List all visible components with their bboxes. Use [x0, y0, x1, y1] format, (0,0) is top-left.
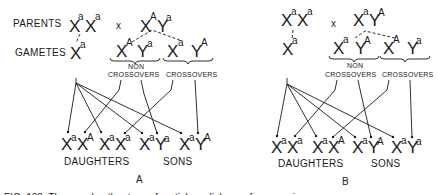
- mother-genotype: X a X a: [69, 11, 101, 36]
- crossovers-label: CROSSOVERS: [166, 71, 218, 78]
- svg-text:a: a: [416, 136, 422, 147]
- crossover-diagram: PARENTS GAMETES X a X a x X A Y a X a X …: [0, 0, 438, 195]
- svg-text:X: X: [167, 42, 178, 61]
- fertilization-lines: [68, 78, 198, 133]
- svg-text:A: A: [377, 136, 384, 147]
- daughters-label: DAUGHTERS: [278, 158, 344, 169]
- svg-text:A: A: [393, 34, 400, 45]
- offspring-genotype: X a Y A: [179, 132, 211, 154]
- offspring-genotype: X a X a: [271, 135, 303, 157]
- father-genotype: X a Y A: [353, 6, 385, 30]
- svg-text:a: a: [125, 132, 131, 143]
- crossover-gametes: X A Y a: [383, 34, 422, 58]
- svg-text:A: A: [201, 37, 208, 48]
- offspring-genotype: X a X A: [312, 135, 345, 157]
- noncrossovers-label: CROSSOVERS: [325, 71, 377, 78]
- parents-label: PARENTS: [13, 18, 62, 29]
- svg-text:A: A: [204, 132, 211, 143]
- svg-text:a: a: [292, 35, 298, 46]
- panel-b: X a X a x X a Y A X a X a Y A X A Y: [271, 6, 434, 187]
- svg-text:A: A: [378, 7, 385, 18]
- offspring-genotype: X a X a: [99, 132, 131, 154]
- svg-text:a: a: [95, 11, 101, 22]
- svg-text:a: a: [78, 11, 84, 22]
- svg-text:A: A: [87, 132, 94, 143]
- svg-text:a: a: [297, 135, 303, 146]
- crossover-gametes: X a Y A: [167, 37, 208, 61]
- svg-text:a: a: [416, 35, 422, 46]
- mother-gamete: X a: [282, 35, 298, 59]
- svg-text:a: a: [166, 12, 172, 23]
- noncrossover-gametes: X a Y A: [333, 34, 371, 58]
- panel-label-b: B: [342, 176, 349, 187]
- daughters-label: DAUGHTERS: [64, 156, 130, 167]
- sons-label: SONS: [163, 156, 193, 167]
- gametes-label: GAMETES: [15, 47, 66, 58]
- non-label: NON: [347, 62, 363, 69]
- fertilization-lines: [277, 78, 412, 137]
- svg-text:A: A: [364, 35, 371, 46]
- svg-text:A: A: [150, 11, 157, 22]
- mother-genotype: X a X a: [281, 6, 313, 30]
- svg-text:a: a: [164, 133, 170, 144]
- svg-text:A: A: [338, 135, 345, 146]
- offspring-genotype: X a Y A: [352, 135, 384, 157]
- crossovers-label: CROSSOVERS: [382, 71, 434, 78]
- cross-symbol: x: [116, 20, 121, 31]
- svg-text:a: a: [307, 6, 313, 17]
- offspring-genotype: X a X A: [61, 132, 94, 154]
- svg-text:a: a: [178, 37, 184, 48]
- svg-text:a: a: [343, 34, 349, 45]
- panel-label-a: A: [136, 174, 143, 185]
- offspring-genotype: X a Y a: [391, 135, 422, 157]
- cross-symbol: x: [331, 18, 336, 29]
- father-genotype: X A Y a: [140, 11, 172, 36]
- svg-text:A: A: [126, 37, 133, 48]
- non-label: NON: [128, 63, 144, 70]
- offspring-genotype: X a Y a: [139, 132, 170, 154]
- mother-gamete: X a: [70, 39, 86, 63]
- svg-text:a: a: [147, 38, 153, 49]
- segregation-line: [355, 31, 395, 38]
- svg-text:a: a: [80, 39, 86, 50]
- panel-a: PARENTS GAMETES X a X a x X A Y a X a X …: [13, 11, 218, 185]
- noncrossovers-label: CROSSOVERS: [108, 71, 160, 78]
- figure-caption: FIG. 108. The grandmother type of partia…: [4, 192, 331, 195]
- sons-label: SONS: [371, 158, 401, 169]
